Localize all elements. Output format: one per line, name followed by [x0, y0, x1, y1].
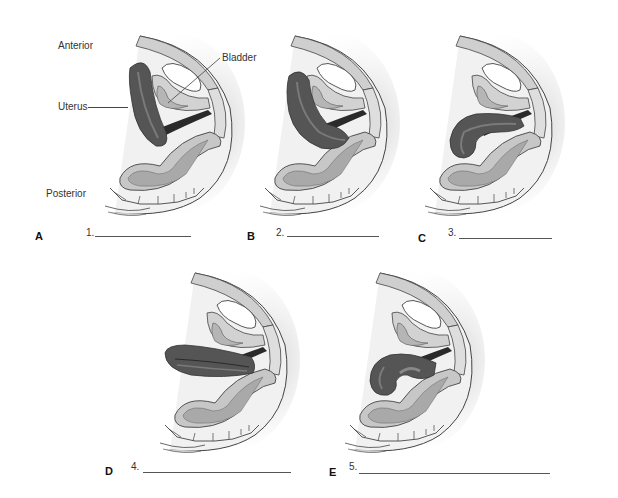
panel-letter-a: A — [35, 230, 43, 242]
panel-letter-d: D — [105, 465, 113, 477]
panel-b — [255, 28, 385, 218]
answer-field-3[interactable] — [459, 238, 552, 239]
answer-number-2: 2. — [276, 227, 284, 238]
answer-field-4[interactable] — [143, 472, 291, 473]
panel-c — [420, 28, 550, 218]
panel-letter-e: E — [329, 466, 336, 478]
answer-number-3: 3. — [448, 227, 456, 238]
pelvis-diagram-c — [420, 28, 550, 218]
panel-d — [155, 265, 285, 455]
pelvis-diagram-b — [255, 28, 385, 218]
answer-number-5: 5. — [349, 461, 357, 472]
pelvis-diagram-d — [155, 265, 285, 455]
panel-letter-b: B — [247, 230, 255, 242]
answer-field-1[interactable] — [95, 236, 191, 237]
answer-number-4: 4. — [131, 461, 139, 472]
pelvis-diagram-e — [340, 265, 470, 455]
answer-field-5[interactable] — [359, 473, 550, 474]
answer-number-1: 1. — [86, 227, 94, 238]
posterior-label: Posterior — [46, 188, 86, 199]
panel-e — [340, 265, 470, 455]
answer-field-2[interactable] — [287, 236, 379, 237]
panel-letter-c: C — [418, 232, 426, 244]
